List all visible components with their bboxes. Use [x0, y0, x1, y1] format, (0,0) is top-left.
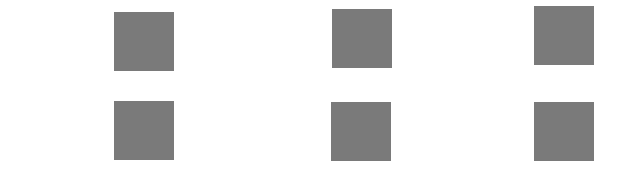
box-noble[interactable] [332, 9, 392, 68]
box-nifty[interactable] [114, 101, 174, 160]
box-natural[interactable] [534, 6, 594, 65]
box-nimble[interactable] [534, 102, 594, 161]
box-novel[interactable] [331, 102, 391, 161]
box-notable[interactable] [114, 12, 174, 71]
